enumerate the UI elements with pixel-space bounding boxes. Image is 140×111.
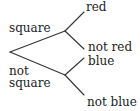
branch-square-to-not-red (65, 31, 84, 49)
branch-square-to-red (65, 12, 84, 31)
label-not-blue: not blue (87, 96, 137, 108)
branch-not-square-to-not-blue (65, 75, 84, 95)
tree-diagram: square not square red not red blue not b… (0, 0, 140, 111)
label-red: red (86, 1, 107, 13)
branch-not-square-to-blue (65, 58, 84, 75)
label-square: square (9, 22, 51, 34)
label-blue: blue (88, 55, 114, 67)
label-not-square-line2: square (9, 77, 51, 89)
label-not-red: not red (88, 41, 132, 53)
